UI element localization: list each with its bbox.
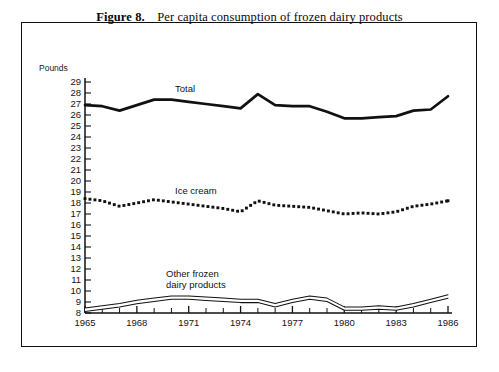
figure-title: Figure 8. Per capita consumption of froz… (0, 10, 499, 25)
y-tick-label: 11 (59, 275, 81, 285)
figure-number: Figure 8. (96, 10, 145, 24)
y-tick-label: 27 (59, 99, 81, 109)
x-tick-label: 1974 (220, 318, 262, 328)
y-tick-label: 12 (59, 264, 81, 274)
x-tick-label: 1980 (323, 318, 365, 328)
figure-title-text: Per capita consumption of frozen dairy p… (157, 10, 403, 24)
y-tick-label: 9 (59, 297, 81, 307)
y-tick-label: 26 (59, 110, 81, 120)
y-tick-label: 14 (59, 242, 81, 252)
y-tick-label: 16 (59, 220, 81, 230)
x-tick-label: 1983 (375, 318, 417, 328)
series-label-other-line2: dairy products (166, 279, 226, 290)
x-tick-label: 1965 (64, 318, 106, 328)
axis-lines (85, 78, 452, 313)
y-tick-label: 13 (59, 253, 81, 263)
y-tick-label: 19 (59, 187, 81, 197)
y-tick-label: 20 (59, 176, 81, 186)
y-tick-label: 18 (59, 198, 81, 208)
series-label-ice-cream: Ice cream (175, 185, 217, 196)
y-tick-label: 17 (59, 209, 81, 219)
x-tick-label: 1986 (427, 318, 469, 328)
series-label-other-frozen-dairy: Other frozen dairy products (166, 268, 226, 290)
chart-canvas (64, 60, 456, 315)
y-tick-label: 15 (59, 231, 81, 241)
series-other-frozen-dairy (85, 295, 448, 312)
y-tick-label: 29 (59, 77, 81, 87)
y-tick-label: 23 (59, 143, 81, 153)
y-tick-label: 10 (59, 286, 81, 296)
y-tick-label: 28 (59, 88, 81, 98)
series-total (85, 94, 448, 118)
y-tick-label: 22 (59, 154, 81, 164)
y-tick-label: 24 (59, 132, 81, 142)
series-ice-cream (84, 197, 450, 215)
series-label-other-line1: Other frozen (166, 268, 219, 279)
series-label-total: Total (175, 83, 195, 94)
x-tick-label: 1968 (116, 318, 158, 328)
y-tick-label: 25 (59, 121, 81, 131)
x-tick-label: 1971 (168, 318, 210, 328)
x-tick-label: 1977 (271, 318, 313, 328)
y-tick-label: 21 (59, 165, 81, 175)
plot-area (64, 60, 456, 315)
